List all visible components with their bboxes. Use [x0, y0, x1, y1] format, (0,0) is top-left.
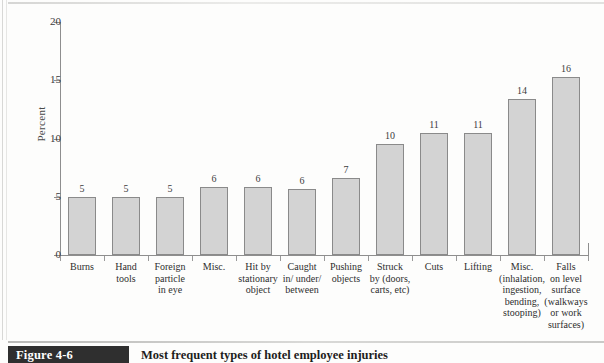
x-axis-category-label-line: surfaces)	[540, 319, 592, 331]
x-axis-category-label-line: (walkways	[540, 296, 592, 308]
bar-value-label: 5	[150, 183, 190, 194]
x-axis-category-label-line: on level	[540, 273, 592, 285]
y-axis-tick-label: 20	[35, 15, 61, 27]
bar-value-label: 6	[238, 173, 278, 184]
x-axis-category-label-line: or work	[540, 307, 592, 319]
y-axis-tick-label: 0	[35, 248, 61, 260]
x-axis-right-end-tick	[588, 243, 589, 256]
bar	[464, 133, 492, 255]
bar-value-label: 11	[458, 119, 498, 130]
x-axis-category-label-line: Falls	[540, 261, 592, 273]
figure-caption: Figure 4-6 Most frequent types of hotel …	[0, 341, 604, 363]
bar-value-label: 6	[282, 175, 322, 186]
bar	[68, 197, 96, 255]
figure-number: Figure 4-6	[16, 348, 126, 363]
y-axis-tick: 0	[0, 255, 61, 256]
bar	[200, 187, 228, 255]
bar-value-label: 7	[326, 164, 366, 175]
bar	[156, 197, 184, 255]
x-axis-category-label-line: in eye	[144, 284, 196, 296]
y-axis-tick-label: 5	[35, 190, 61, 202]
bar	[508, 99, 536, 255]
y-axis-tick: 15	[0, 80, 61, 81]
bar	[288, 189, 316, 255]
bar-value-label: 14	[502, 85, 542, 96]
scanned-page: Percent 05101520 55566671011111416 Burns…	[0, 0, 604, 363]
y-axis-tick: 20	[0, 22, 61, 23]
x-axis-category-label-line: between	[276, 284, 328, 296]
y-axis-label: Percent	[35, 89, 47, 159]
caption-rule	[8, 341, 604, 343]
y-axis-tick: 10	[0, 139, 61, 140]
y-axis-tick: 5	[0, 197, 61, 198]
x-axis-category-label-line: surface	[540, 284, 592, 296]
bar	[552, 77, 580, 255]
x-axis-category-label-line: by (doors,	[364, 273, 416, 285]
y-axis-tick-label: 15	[35, 73, 61, 85]
x-axis-category-label-line: carts, etc)	[364, 284, 416, 296]
y-axis-tick-label: 10	[35, 132, 61, 144]
x-axis-category-label-line: particle	[144, 273, 196, 285]
bar-value-label: 16	[546, 63, 586, 74]
bar	[112, 197, 140, 255]
bar	[376, 144, 404, 255]
figure-title: Most frequent types of hotel employee in…	[141, 348, 388, 363]
bar-value-label: 5	[106, 183, 146, 194]
bar-value-label: 5	[62, 183, 102, 194]
x-axis-category-label: Fallson levelsurface(walkwaysor worksurf…	[540, 261, 592, 330]
bar-chart: Percent 05101520 55566671011111416 Burns…	[0, 0, 604, 336]
bar	[332, 178, 360, 255]
bar	[244, 187, 272, 255]
bar-value-label: 10	[370, 130, 410, 141]
bar	[420, 133, 448, 255]
bar-value-label: 11	[414, 119, 454, 130]
bar-value-label: 6	[194, 173, 234, 184]
